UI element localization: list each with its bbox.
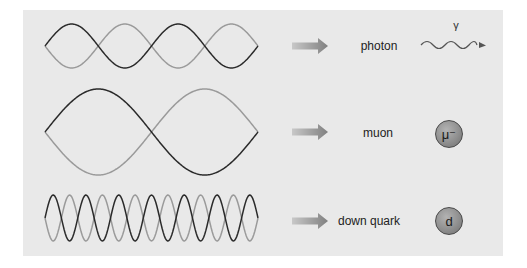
arrow-icon — [292, 124, 328, 140]
arrow-icon — [292, 38, 328, 54]
photon-wavy-arrow-icon — [421, 42, 486, 49]
photon-standing-wave — [45, 24, 258, 68]
down-quark-label: down quark — [338, 214, 400, 228]
down-quark-standing-wave — [45, 195, 258, 241]
gamma-symbol: γ — [453, 19, 459, 31]
down-quark-particle-icon: d — [435, 207, 463, 235]
photon-label: photon — [361, 39, 398, 53]
arrow-icon — [292, 213, 328, 229]
muon-label: muon — [363, 126, 393, 140]
down-quark-symbol: d — [445, 214, 452, 229]
muon-symbol: μ⁻ — [442, 127, 457, 142]
muon-particle-icon: μ⁻ — [435, 120, 463, 148]
muon-standing-wave — [45, 89, 258, 175]
